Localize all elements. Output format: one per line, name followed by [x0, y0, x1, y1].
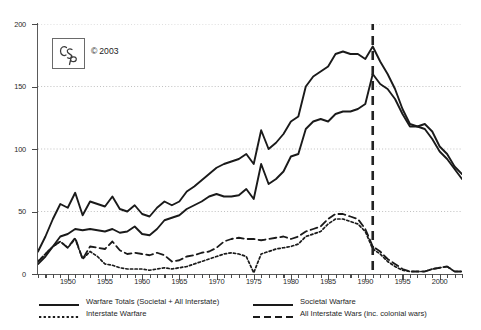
legend-swatch: [38, 296, 80, 306]
x-tick-label: 1975: [237, 277, 271, 286]
legend-swatch: [252, 296, 294, 306]
series-line: [38, 74, 462, 264]
legend-label: All Interstate Wars (inc. colonial wars): [300, 309, 427, 318]
plot-area: [38, 24, 462, 274]
legend-label: Warfare Totals (Societal + All Interstat…: [86, 297, 219, 306]
legend-swatch: [38, 308, 80, 318]
y-tick-label: 100: [4, 145, 26, 154]
x-tick-label: 1980: [274, 277, 308, 286]
x-axis-line: [37, 274, 463, 275]
csp-logo: [52, 38, 85, 69]
copyright-icon: ©: [91, 46, 97, 56]
x-tick-label: 1950: [51, 277, 85, 286]
x-tick-label: 1965: [162, 277, 196, 286]
x-tick-label: 1985: [311, 277, 345, 286]
copyright-notice: ©2003: [91, 46, 118, 56]
legend-swatch: [252, 308, 294, 318]
chart-lines: [38, 24, 462, 274]
x-tick-mark: [462, 274, 463, 278]
chart-figure: 050100150200 195019551960196519701975198…: [0, 0, 481, 330]
y-tick-label: 50: [4, 207, 26, 216]
y-tick-label: 200: [4, 20, 26, 29]
legend-label: Societal Warfare: [300, 297, 356, 306]
legend-label: Interstate Warfare: [86, 309, 147, 318]
series-line: [38, 219, 462, 273]
x-tick-label: 1990: [348, 277, 382, 286]
chart-legend: Warfare Totals (Societal + All Interstat…: [0, 294, 481, 330]
x-tick-label: 1955: [88, 277, 122, 286]
y-tick-label: 150: [4, 82, 26, 91]
x-tick-label: 1960: [125, 277, 159, 286]
x-tick-label: 2000: [423, 277, 457, 286]
x-tick-mark: [38, 274, 39, 278]
copyright-year: 2003: [99, 46, 118, 56]
x-tick-label: 1970: [200, 277, 234, 286]
x-tick-label: 1995: [385, 277, 419, 286]
x-tick-mark: [45, 274, 46, 278]
csp-logo-mark: [53, 39, 84, 68]
y-tick-label: 0: [4, 270, 26, 279]
